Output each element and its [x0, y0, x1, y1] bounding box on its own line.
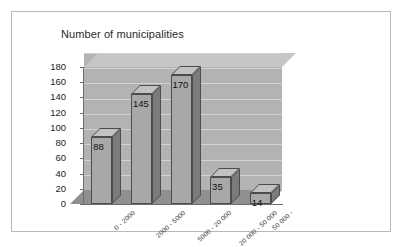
- y-axis-tick-label: 60: [42, 152, 66, 163]
- chart-title: Number of municipalities: [61, 28, 184, 40]
- y-axis-tick-mark: [80, 189, 84, 190]
- bar-column[interactable]: 14: [250, 193, 271, 204]
- bar-value-label: 14: [252, 197, 263, 208]
- y-axis-tick-mark: [80, 174, 84, 175]
- bar-value-label: 145: [133, 98, 149, 109]
- bar-side-face: [152, 85, 161, 204]
- y-axis-tick-label: 160: [42, 76, 66, 87]
- y-axis-tick-mark: [80, 97, 84, 98]
- bar-value-label: 35: [212, 181, 223, 192]
- y-axis-tick-label: 180: [42, 61, 66, 72]
- bar-side-face: [192, 66, 201, 204]
- y-axis-tick-mark: [80, 143, 84, 144]
- y-axis-tick-mark: [80, 128, 84, 129]
- y-axis-tick-label: 0: [42, 198, 66, 209]
- chart-screenshot: Number of municipalities 180160140120100…: [0, 0, 404, 247]
- y-axis-tick-label: 80: [42, 137, 66, 148]
- y-axis-line: [83, 67, 84, 204]
- y-axis-tick-label: 140: [42, 91, 66, 102]
- y-axis-tick-label: 40: [42, 168, 66, 179]
- bar-value-label: 170: [173, 79, 189, 90]
- x-axis-category-label: 5000 - 20 000: [196, 209, 232, 243]
- bar-value-label: 88: [93, 141, 104, 152]
- y-axis-tick-label: 120: [42, 107, 66, 118]
- bar-column[interactable]: 35: [210, 177, 231, 204]
- plot-area: 180160140120100806040200 881451703514 0 …: [70, 53, 282, 205]
- bar-column[interactable]: 145: [131, 94, 152, 204]
- bar-front-face: [171, 75, 192, 204]
- y-axis-tick-label: 20: [42, 183, 66, 194]
- bar-side-face: [112, 128, 121, 204]
- bar-front-face: [131, 94, 152, 204]
- y-axis-tick-label: 100: [42, 122, 66, 133]
- x-axis-category-label: 0 - 2000: [112, 209, 136, 231]
- y-axis-tick-mark: [80, 158, 84, 159]
- y-axis-tick-mark: [80, 67, 84, 68]
- bar-column[interactable]: 88: [91, 137, 112, 204]
- y-axis-tick-mark: [80, 82, 84, 83]
- y-axis-tick-mark: [80, 204, 84, 205]
- chart-frame: Number of municipalities 180160140120100…: [11, 11, 391, 232]
- y-axis-tick-mark: [80, 113, 84, 114]
- x-axis-category-label: 2000 - 5000: [155, 209, 187, 239]
- bar-column[interactable]: 170: [171, 75, 192, 204]
